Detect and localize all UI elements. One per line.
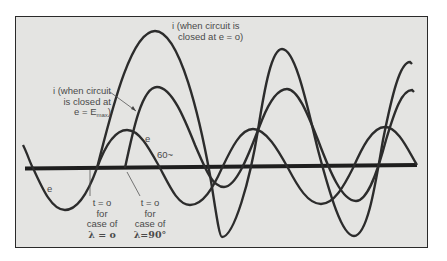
label-t0-lambda90-line3: case of — [124, 219, 176, 230]
label-i-closed-e0-line1: i (when circuit is — [172, 21, 243, 32]
emax-subscript: max — [96, 112, 107, 118]
label-t0-lambda0-line3: case of — [78, 219, 126, 230]
t0-lambda90-leader — [127, 172, 140, 196]
label-e-upper: e — [145, 134, 150, 145]
emax-suffix: ) — [108, 106, 111, 117]
label-frequency-60hz: 60~ — [157, 150, 173, 161]
emax-arrowhead-icon — [131, 106, 136, 111]
label-i-closed-emax-line1: i (when circuit — [41, 86, 111, 97]
label-i-closed-emax: i (when circuit is closed at e = Emax) — [41, 86, 111, 121]
label-t0-lambda0: t = o for case of λ = o — [78, 198, 126, 240]
transient-current-diagram: i (when circuit is closed at e = o) i (w… — [0, 0, 447, 261]
label-i-closed-e0-line2: closed at e = o) — [172, 32, 243, 43]
label-t0-lambda90: t = o for case of λ=90° — [124, 198, 176, 240]
label-t0-lambda0-line1: t = o — [78, 198, 126, 209]
label-i-closed-e0: i (when circuit is closed at e = o) — [172, 21, 243, 42]
label-i-closed-emax-line3: e = Emax) — [41, 107, 111, 121]
label-e-lower: e — [47, 184, 52, 195]
label-t0-lambda90-line1: t = o — [124, 198, 176, 209]
label-t0-lambda0-line4: λ = o — [78, 230, 126, 241]
emax-prefix: e = E — [74, 106, 96, 117]
label-t0-lambda90-line4: λ=90° — [124, 230, 176, 241]
